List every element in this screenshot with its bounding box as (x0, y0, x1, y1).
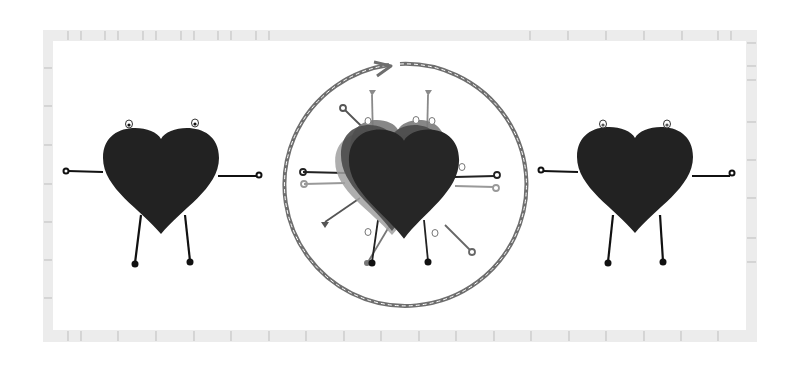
heart-body (103, 128, 219, 234)
eyes (126, 119, 199, 128)
left-heart-character (64, 119, 262, 268)
left-foot-icon (132, 261, 139, 268)
center-cycle-group (284, 62, 526, 306)
left-foot-icon (605, 260, 612, 267)
right-foot-icon (660, 259, 667, 266)
eyes (600, 120, 671, 128)
center-heart-body (349, 130, 459, 239)
right-heart-character (539, 120, 735, 267)
illustration-canvas (0, 0, 798, 365)
right-foot-icon (187, 259, 194, 266)
heart-body (577, 127, 693, 233)
